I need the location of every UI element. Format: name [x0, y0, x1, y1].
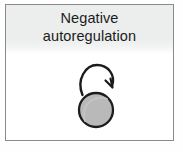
- arrowhead-icon: [106, 79, 113, 88]
- self-loop-arc-icon: [80, 65, 113, 95]
- panel-header: Negative autoregulation: [6, 5, 173, 53]
- negative-autoregulation-motif: [6, 53, 173, 140]
- motif-panel: Negative autoregulation: [5, 4, 174, 141]
- diagram-canvas: [6, 53, 173, 140]
- screenshot-root: Negative autoregulation: [0, 0, 183, 152]
- panel-title-line-2: autoregulation: [6, 27, 173, 45]
- panel-title: Negative autoregulation: [6, 9, 173, 45]
- panel-title-line-1: Negative: [6, 9, 173, 27]
